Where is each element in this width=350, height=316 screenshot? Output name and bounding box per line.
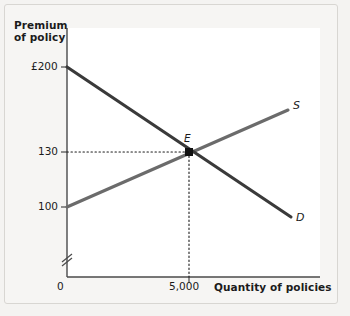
y-axis-title-line-2: of policy bbox=[14, 32, 68, 44]
x-axis-title: Quantity of policies bbox=[214, 282, 332, 294]
plot-canvas bbox=[0, 0, 350, 316]
equilibrium-point-marker bbox=[185, 148, 193, 156]
y-tick-label-130: 130 bbox=[38, 146, 58, 158]
x-tick-label-0: 0 bbox=[57, 281, 64, 293]
y-axis-title-line-1: Premium bbox=[14, 20, 68, 32]
supply-curve-label: S bbox=[293, 100, 300, 112]
y-axis-title: Premium of policy bbox=[14, 20, 68, 44]
economics-supply-demand-figure: Premium of policy Quantity of policies £… bbox=[0, 0, 350, 316]
y-tick-label-200: £200 bbox=[31, 61, 58, 73]
y-tick-label-100: 100 bbox=[38, 201, 58, 213]
equilibrium-point-label: E bbox=[184, 133, 191, 145]
x-tick-label-5000: 5,000 bbox=[169, 281, 199, 293]
demand-curve-label: D bbox=[296, 212, 304, 224]
